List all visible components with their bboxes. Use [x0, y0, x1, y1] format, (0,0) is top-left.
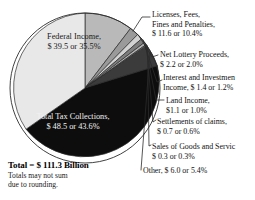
callout-interest-line1: Interest and Investmen: [163, 73, 235, 83]
callout-lottery-line1: Net Lottery Proceeds,: [160, 50, 229, 60]
pie-chart-figure: Federal Income, $ 39.5 or 35.5% Total Ta…: [0, 0, 255, 200]
chart-rounding-note-line1: Totals may not sum: [8, 171, 138, 180]
callout-land-line1: Land Income,: [166, 96, 210, 106]
callout-settlements-line2: $ 0.7 or 0.6%: [157, 127, 227, 137]
callout-interest-line2: Income, $ 1.4 or 1.2%: [163, 83, 235, 93]
callout-settlements-line1: Settlements of claims,: [157, 117, 227, 127]
callout-label-other: Other, $ 6.0 or 5.4%: [143, 166, 207, 176]
callout-licenses-line1: Licenses, Fees,: [152, 10, 215, 20]
callout-sales-line2: $ 0.3 or 0.3%: [152, 152, 235, 162]
leader-line-licenses: [133, 17, 150, 31]
chart-rounding-note: Totals may not sum due to rounding.: [8, 171, 138, 189]
callout-sales-line1: Sales of Goods and Servic: [152, 142, 235, 152]
callout-label-sales-of-goods-and-services: Sales of Goods and Servic $ 0.3 or 0.3%: [152, 142, 235, 161]
chart-footer: Total = $ 111.3 Billion Totals may not s…: [8, 160, 138, 189]
callout-land-line2: $1.1 or 1.0%: [166, 106, 210, 116]
callout-label-net-lottery-proceeds: Net Lottery Proceeds, $ 2.2 or 2.0%: [160, 50, 229, 69]
callout-other-line1: Other, $ 6.0 or 5.4%: [143, 166, 207, 176]
callout-licenses-line2: Fines and Penalties,: [152, 20, 215, 30]
chart-total-label: Total = $ 111.3 Billion: [8, 160, 138, 170]
callout-label-interest-investment-income: Interest and Investmen Income, $ 1.4 or …: [163, 73, 235, 92]
callout-lottery-line2: $ 2.2 or 2.0%: [160, 60, 229, 70]
callout-licenses-line3: $ 11.6 or 10.4%: [152, 29, 215, 39]
callout-label-licenses-fees: Licenses, Fees, Fines and Penalties, $ 1…: [152, 10, 215, 39]
callout-label-settlements-of-claims: Settlements of claims, $ 0.7 or 0.6%: [157, 117, 227, 136]
callout-label-land-income: Land Income, $1.1 or 1.0%: [166, 96, 210, 115]
chart-rounding-note-line2: due to rounding.: [8, 180, 138, 189]
